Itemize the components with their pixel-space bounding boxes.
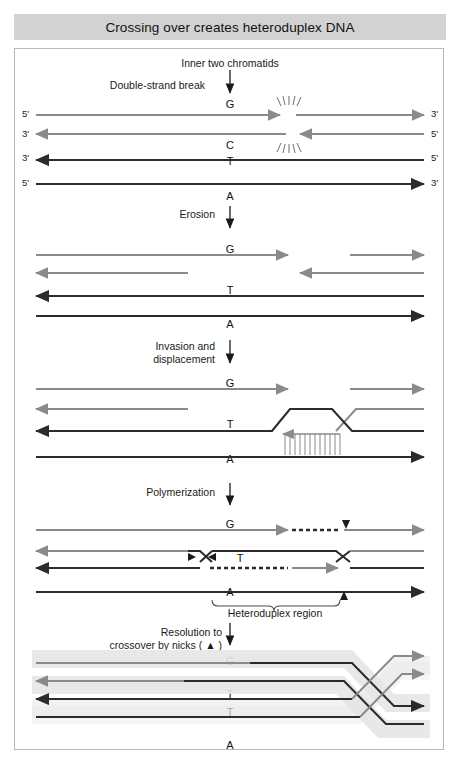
label-double-strand-break: Double-strand break <box>110 79 205 91</box>
base-label-G-stage2: G <box>226 243 235 255</box>
step-label-resolution-line1: Resolution to <box>161 626 222 638</box>
base-label-T-stage5-lower: T <box>227 706 234 718</box>
base-label-C-stage1: C <box>226 139 234 151</box>
base-label-G-stage1: G <box>226 98 235 110</box>
end-label-left-4: 5' <box>22 177 29 188</box>
base-label-T-stage2: T <box>227 284 234 296</box>
figure-root: Crossing over creates heteroduplex DNA I… <box>0 0 460 768</box>
page-title: Crossing over creates heteroduplex DNA <box>105 20 354 35</box>
base-label-A-stage5: A <box>226 739 233 751</box>
base-label-A-stage3: A <box>226 453 233 465</box>
step-label-resolution-line2: crossover by nicks ( ▲ ) <box>110 639 223 651</box>
end-label-left-2: 3' <box>22 128 29 139</box>
end-label-right-3: 5' <box>431 152 438 163</box>
base-label-G-stage5: G <box>226 655 235 667</box>
label-heteroduplex-region: Heteroduplex region <box>228 607 323 619</box>
end-label-right-2: 5' <box>431 128 438 139</box>
end-label-right-4: 3' <box>431 177 438 188</box>
step-label-invasion-line1: Invasion and <box>155 340 215 352</box>
step-label-polymerization: Polymerization <box>146 486 215 498</box>
label-inner-two-chromatids: Inner two chromatids <box>181 57 278 69</box>
base-label-T-stage3: T <box>227 418 234 430</box>
end-label-right-1: 3' <box>431 108 438 119</box>
base-label-G-stage4: G <box>226 518 235 530</box>
base-label-T-stage5-upper: T <box>227 688 234 700</box>
base-label-T-stage4: T <box>237 552 244 564</box>
figure-frame <box>14 48 444 750</box>
base-label-A-stage1: A <box>226 190 233 202</box>
base-label-G-stage3: G <box>226 377 235 389</box>
end-label-left-1: 5' <box>22 108 29 119</box>
base-label-A-stage4: A <box>226 586 233 598</box>
step-label-erosion: Erosion <box>179 208 215 220</box>
base-label-A-stage2: A <box>226 318 233 330</box>
base-label-T-stage1: T <box>227 155 234 167</box>
figure-title-bar: Crossing over creates heteroduplex DNA <box>14 14 446 40</box>
step-label-invasion-line2: displacement <box>153 353 215 365</box>
end-label-left-3: 3' <box>22 152 29 163</box>
